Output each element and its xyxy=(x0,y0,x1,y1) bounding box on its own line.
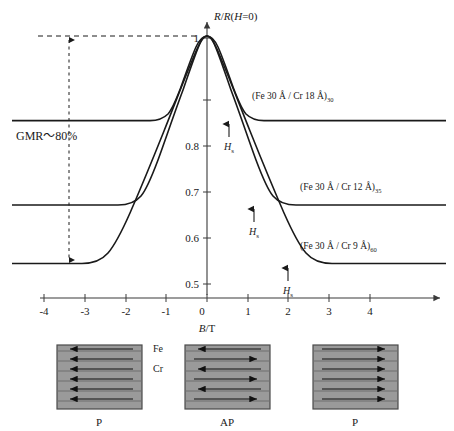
curve-labels: (Fe 30 Å / Cr 18 Å)30 (Fe 30 Å / Cr 12 Å… xyxy=(252,90,381,253)
curve-label-cr18: (Fe 30 Å / Cr 18 Å)30 xyxy=(252,90,333,103)
x-tick-label: -3 xyxy=(80,305,90,317)
gmr-label: GMR～80% xyxy=(16,129,77,143)
panel-caption-p-right: P xyxy=(352,416,358,428)
x-axis-title-text: B/T xyxy=(199,322,216,334)
schematic-panel-ap: AP Fe Cr xyxy=(153,343,270,428)
y-tick-label: 0.5 xyxy=(185,278,199,290)
x-tick-label: 4 xyxy=(367,305,373,317)
x-tick-label: -2 xyxy=(121,305,130,317)
schematic-panel-p-left: P xyxy=(57,345,142,428)
x-tick-label: 2 xyxy=(285,305,291,317)
y-tick-label: 0.7 xyxy=(185,186,199,198)
x-tick-label: 3 xyxy=(326,305,332,317)
material-label-fe: Fe xyxy=(153,343,164,354)
curve-label-cr12: (Fe 30 Å / Cr 12 Å)35 xyxy=(300,181,381,194)
curve-label-cr9: (Fe 30 Å / Cr 9 Å)60 xyxy=(300,240,377,253)
hs-label-cr12: Hs xyxy=(248,226,259,240)
y-tick-label: 0.8 xyxy=(185,140,199,152)
x-tick-label: 1 xyxy=(245,305,251,317)
hs-label-cr18: Hs xyxy=(223,141,234,155)
x-tick-label: 0 xyxy=(199,305,205,317)
x-axis-title: B/T xyxy=(199,322,216,334)
schematic-panel-p-right: P xyxy=(313,345,398,428)
gmr-figure: -4 -3 -2 -1 0 1 2 3 4 0.5 0.6 0.7 0.8 1 xyxy=(0,0,454,431)
x-tick-label: -1 xyxy=(161,305,170,317)
figure-svg: -4 -3 -2 -1 0 1 2 3 4 0.5 0.6 0.7 0.8 1 xyxy=(0,0,454,431)
panel-caption-p-left: P xyxy=(96,416,102,428)
y-tick-label: 0.6 xyxy=(185,232,199,244)
y-axis-title-text: R/R(H=0) xyxy=(213,10,258,23)
x-tick-labels: -4 -3 -2 -1 0 1 2 3 4 xyxy=(39,305,373,317)
panel-caption-ap: AP xyxy=(220,416,234,428)
x-tick-label: -4 xyxy=(39,305,49,317)
y-axis-title: R/R(H=0) xyxy=(213,10,258,23)
axes xyxy=(40,22,440,298)
material-label-cr: Cr xyxy=(153,363,164,374)
gmr-annotation: GMR～80% xyxy=(16,36,200,264)
